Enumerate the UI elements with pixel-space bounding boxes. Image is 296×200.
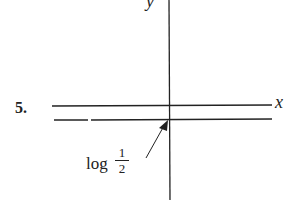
denominator: 2 — [115, 162, 129, 175]
numerator: 1 — [115, 146, 129, 159]
arrowhead-icon — [159, 120, 168, 131]
x-axis-label: x — [275, 92, 283, 113]
problem-number: 5. — [15, 99, 27, 117]
fraction: 1 2 — [115, 146, 129, 175]
y-axis-label: y — [146, 0, 154, 12]
constant-line — [91, 119, 272, 120]
x-axis — [52, 105, 272, 106]
axes-graphic — [0, 0, 296, 200]
y-axis — [169, 0, 170, 200]
log-label: log — [86, 154, 108, 174]
graph-figure: 5. x y log 1 2 — [0, 0, 296, 200]
